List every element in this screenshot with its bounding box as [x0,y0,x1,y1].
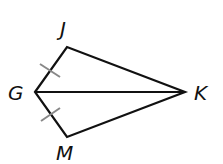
tick-mark-gj [40,64,60,77]
label-k: K [194,81,209,105]
tick-mark-gm [41,108,60,121]
label-j: J [56,17,66,41]
label-g: G [8,81,24,105]
kite-diagram: J G K M [0,0,223,164]
geometry-figure: J G K M [0,0,223,164]
label-m: M [56,141,73,164]
